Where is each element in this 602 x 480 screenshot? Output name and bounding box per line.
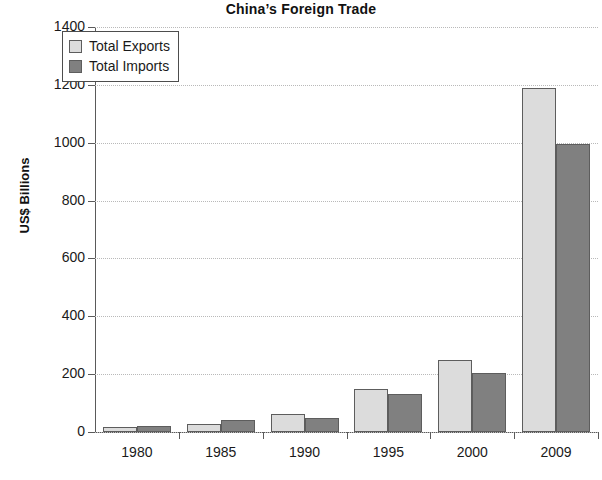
x-axis-tick-label: 1990 [265,444,345,460]
x-axis-tick-label: 1995 [348,444,428,460]
y-axis-tick-label: 800 [23,193,85,207]
bar-total-imports-2000 [472,373,506,432]
bar-total-exports-1990 [271,414,305,432]
x-axis-tick [598,432,599,439]
x-axis-tick [263,432,264,439]
y-axis-tick [88,27,95,28]
bar-total-exports-1995 [354,389,388,432]
bar-total-exports-2009 [522,88,556,432]
y-axis-tick-label: 1000 [23,135,85,149]
bar-total-exports-2000 [438,360,472,432]
x-axis-tick-label: 1980 [97,444,177,460]
y-axis-tick-label: 0 [23,424,85,438]
legend-swatch-icon [69,60,82,73]
chart-title: China’s Foreign Trade [0,1,602,17]
y-axis-tick-label: 200 [23,366,85,380]
bar-total-imports-1980 [137,426,171,432]
legend-item: Total Imports [69,56,170,76]
legend-label: Total Exports [89,38,170,54]
gridline [95,85,598,86]
x-axis-tick-label: 1985 [181,444,261,460]
y-axis-tick [88,85,95,86]
legend-label: Total Imports [89,58,169,74]
bar-total-imports-1995 [388,394,422,432]
bar-total-exports-1985 [187,424,221,432]
y-axis-tick-label: 400 [23,308,85,322]
x-axis-tick-label: 2000 [432,444,512,460]
bar-total-imports-1990 [305,418,339,432]
x-axis-tick [514,432,515,439]
y-axis-tick [88,143,95,144]
y-axis-tick [88,201,95,202]
chart-container: China’s Foreign Trade US$ Billions 02004… [0,0,602,480]
bar-total-imports-1985 [221,420,255,432]
bar-total-exports-1980 [103,427,137,432]
x-axis-tick-label: 2009 [516,444,596,460]
bar-total-imports-2009 [556,144,590,432]
legend-item: Total Exports [69,36,170,56]
gridline [95,27,598,28]
legend-swatch-icon [69,40,82,53]
x-axis-tick [179,432,180,439]
x-axis-tick [347,432,348,439]
y-axis-tick [88,374,95,375]
x-axis-tick [430,432,431,439]
y-axis-tick [88,258,95,259]
y-axis-tick [88,432,95,433]
y-axis-tick [88,316,95,317]
plot-area [95,27,598,432]
y-axis-tick-label: 600 [23,250,85,264]
chart-legend: Total ExportsTotal Imports [62,31,179,82]
